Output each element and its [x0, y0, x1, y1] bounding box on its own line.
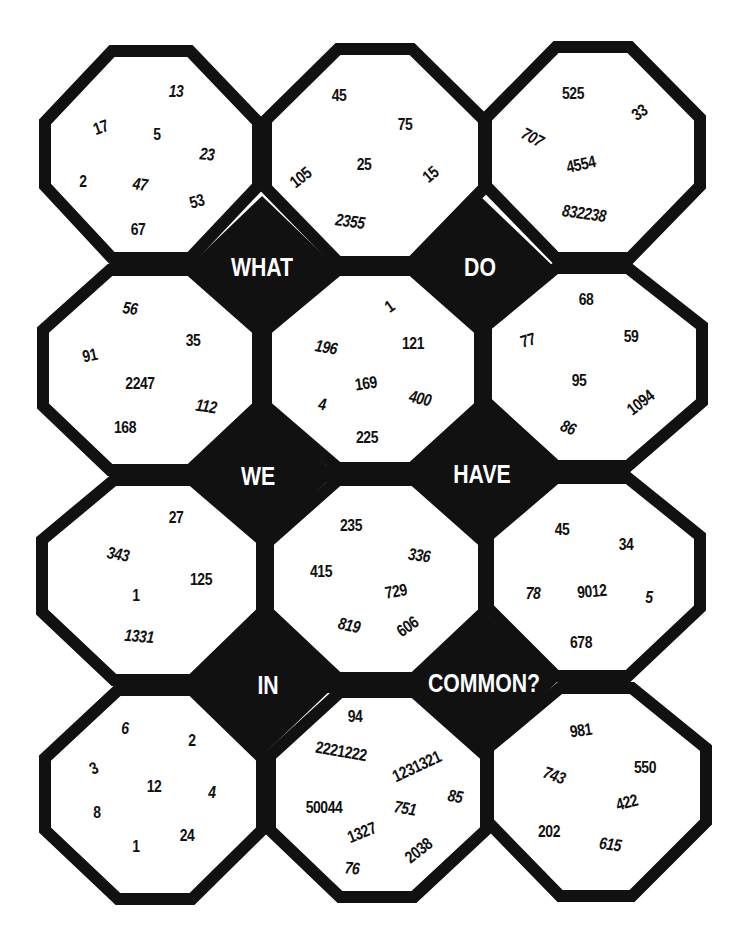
diamond-word: WE [241, 462, 275, 491]
cell-number: 981 [569, 720, 594, 743]
cell-number: 67 [131, 220, 146, 240]
cell-number: 400 [407, 387, 433, 411]
cell-number: 75 [398, 115, 413, 135]
cell-number: 125 [190, 570, 212, 590]
puzzle-board: WHATDOWEHAVEINCOMMON? 131752324753674575… [0, 0, 742, 926]
cell-number: 4 [208, 783, 215, 803]
cell-number: 47 [131, 174, 148, 196]
diamond-word: HAVE [453, 460, 510, 489]
cell-number: 678 [570, 633, 592, 653]
cell-number: 76 [344, 858, 360, 879]
cell-number: 34 [619, 535, 634, 555]
cell-number: 5 [645, 588, 652, 608]
cell-number: 56 [121, 298, 138, 320]
cell-number: 2247 [125, 374, 154, 394]
cell-number: 45 [555, 520, 570, 540]
cell-number: 615 [598, 834, 623, 857]
cell-number: 1 [132, 586, 139, 606]
diamond-word: WHAT [231, 253, 293, 282]
cell-number: 112 [194, 396, 218, 419]
cell-number: 45 [332, 86, 347, 106]
cell-number: 78 [526, 584, 541, 604]
cell-number: 13 [169, 82, 184, 102]
cell-number: 751 [392, 797, 417, 821]
octagon-r3c2 [488, 688, 706, 896]
octagon-grid-graphic [0, 0, 742, 926]
cell-number: 196 [313, 336, 338, 360]
cell-number: 9012 [576, 581, 607, 603]
cell-number: 819 [336, 614, 362, 638]
cell-number: 1 [132, 837, 139, 857]
diamond-word: IN [257, 671, 278, 700]
octagon-r0c0 [45, 51, 258, 258]
cell-number: 169 [354, 373, 379, 396]
cell-number: 68 [579, 290, 594, 310]
cell-number: 729 [383, 580, 408, 604]
cell-number: 2 [79, 172, 86, 192]
cell-number: 525 [562, 84, 584, 104]
cell-number: 23 [199, 144, 215, 165]
cell-number: 202 [538, 822, 560, 842]
cell-number: 121 [402, 334, 424, 354]
cell-number: 336 [407, 545, 432, 568]
cell-number: 94 [348, 707, 363, 727]
cell-number: 25 [357, 155, 372, 175]
cell-number: 235 [340, 516, 362, 536]
cell-number: 27 [169, 508, 184, 528]
cell-number: 6 [121, 719, 128, 739]
diamond-word: DO [464, 253, 496, 282]
diamond-word: COMMON? [428, 669, 540, 698]
cell-number: 12 [147, 777, 162, 797]
cell-number: 35 [186, 331, 201, 351]
cell-number: 5 [153, 125, 160, 145]
cell-number: 550 [634, 758, 656, 778]
cell-number: 59 [624, 327, 639, 347]
cell-number: 2355 [334, 210, 366, 234]
octagon-r2c2 [488, 478, 700, 676]
cell-number: 2 [188, 731, 195, 751]
cell-number: 24 [180, 826, 195, 846]
cell-number: 50044 [306, 798, 343, 818]
cell-number: 415 [310, 562, 332, 582]
cell-number: 343 [105, 543, 130, 567]
cell-number: 8 [93, 803, 100, 823]
cell-number: 95 [572, 371, 587, 391]
cell-number: 1331 [123, 626, 154, 648]
cell-number: 168 [114, 418, 136, 438]
cell-number: 225 [356, 428, 378, 448]
